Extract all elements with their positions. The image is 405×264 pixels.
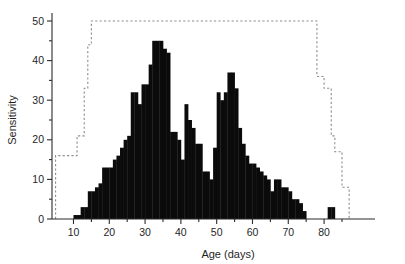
histogram-bar: [131, 92, 135, 219]
histogram-bar: [159, 41, 163, 219]
histogram-bar: [163, 49, 167, 219]
histogram-bar: [260, 171, 264, 219]
x-tick-label: 40: [175, 226, 187, 238]
histogram-bar: [252, 164, 256, 219]
histogram-bar: [227, 72, 231, 219]
histogram-bar: [199, 144, 203, 219]
histogram-bar: [106, 168, 110, 219]
histogram-bar: [267, 179, 271, 219]
histogram-bar: [77, 215, 81, 219]
x-tick-label: 50: [211, 226, 223, 238]
histogram-bar: [213, 148, 217, 219]
histogram-bar: [120, 148, 124, 219]
histogram-bar: [88, 191, 92, 219]
histogram-bar: [152, 41, 156, 219]
histogram-bar: [116, 156, 120, 219]
x-tick-label: 20: [103, 226, 115, 238]
histogram-bar: [278, 179, 282, 219]
y-tick-label: 0: [38, 213, 44, 225]
histogram-bar: [192, 128, 196, 219]
x-axis-ticks: [73, 219, 342, 224]
histogram-bar: [195, 144, 199, 219]
histogram-plot: 1020304050607080 01020304050 Age (days) …: [0, 0, 405, 264]
histogram-bar: [202, 171, 206, 219]
histogram-bar: [99, 183, 103, 219]
histogram-bar: [220, 100, 224, 219]
histogram-bar: [292, 199, 296, 219]
x-tick-label: 30: [139, 226, 151, 238]
y-tick-label: 30: [32, 94, 44, 106]
histogram-bar: [149, 65, 153, 219]
histogram-bar: [206, 171, 210, 219]
histogram-bar: [102, 168, 106, 219]
histogram-bar: [170, 132, 174, 219]
histogram-bar: [73, 215, 77, 219]
x-tick-label: 60: [247, 226, 259, 238]
histogram-bar: [285, 187, 289, 219]
histogram-bar: [274, 179, 278, 219]
histogram-bar: [156, 41, 160, 219]
histogram-bar: [235, 88, 239, 219]
x-tick-label: 70: [282, 226, 294, 238]
histogram-bar: [113, 160, 117, 219]
histogram-bar: [242, 144, 246, 219]
histogram-bar: [109, 168, 113, 219]
histogram-bar: [231, 72, 235, 219]
chart-figure: 1020304050607080 01020304050 Age (days) …: [0, 0, 405, 264]
histogram-bar: [217, 92, 221, 219]
histogram-bar: [245, 156, 249, 219]
histogram-bar: [138, 104, 142, 219]
y-axis-label: Sensitivity: [6, 95, 18, 145]
histogram-bar: [210, 179, 214, 219]
histogram-bar: [288, 191, 292, 219]
x-axis-tick-labels: 1020304050607080: [68, 226, 330, 238]
x-axis-label: Age (days): [201, 248, 254, 260]
histogram-bar: [331, 207, 335, 219]
histogram-bar: [177, 140, 181, 219]
histogram-bar: [181, 160, 185, 219]
histogram-bar: [81, 207, 85, 219]
histogram-bar: [134, 92, 138, 219]
y-tick-label: 50: [32, 15, 44, 27]
histogram-bar: [174, 132, 178, 219]
y-axis-ticks: [47, 21, 52, 219]
histogram-bar: [84, 207, 88, 219]
histogram-bar: [184, 104, 188, 219]
histogram-bar: [281, 187, 285, 219]
histogram-bar: [124, 140, 128, 219]
y-tick-label: 20: [32, 133, 44, 145]
y-axis-tick-labels: 01020304050: [32, 15, 44, 225]
histogram-bar: [95, 187, 99, 219]
histogram-bar: [303, 211, 307, 219]
histogram-bar: [91, 191, 95, 219]
histogram-bar: [299, 203, 303, 219]
y-tick-label: 40: [32, 54, 44, 66]
histogram-bar: [145, 84, 149, 219]
histogram-bars: [73, 41, 335, 219]
histogram-bar: [295, 199, 299, 219]
histogram-bar: [127, 136, 131, 219]
histogram-bar: [224, 92, 228, 219]
histogram-bar: [238, 128, 242, 219]
histogram-bar: [142, 84, 146, 219]
x-tick-label: 80: [318, 226, 330, 238]
x-tick-label: 10: [68, 226, 80, 238]
histogram-bar: [167, 53, 171, 219]
histogram-bar: [249, 164, 253, 219]
histogram-bar: [270, 191, 274, 219]
histogram-bar: [256, 168, 260, 219]
histogram-bar: [188, 120, 192, 219]
histogram-bar: [328, 207, 332, 219]
histogram-bar: [263, 175, 267, 219]
y-tick-label: 10: [32, 173, 44, 185]
